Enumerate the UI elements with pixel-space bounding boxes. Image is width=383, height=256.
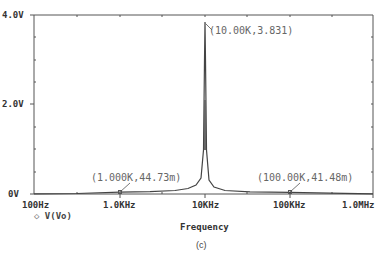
x-tick-label-100khz: 100KHz bbox=[273, 200, 306, 210]
x-tick-label-1mhz: 1.0MHz bbox=[342, 200, 375, 210]
x-tick-label-1khz: 1.0KHz bbox=[103, 200, 136, 210]
x-axis-title: Frequency bbox=[180, 222, 229, 232]
annotation-100khz: (100.00K,41.48m) bbox=[257, 172, 353, 183]
legend-diamond-icon: ◇ bbox=[34, 211, 39, 221]
x-tick-label-100hz: 100Hz bbox=[22, 200, 49, 210]
y-tick-label-2v: 2.0V bbox=[2, 99, 24, 109]
series-v-vo bbox=[34, 22, 373, 194]
x-tick-label-10khz: 10KHz bbox=[192, 200, 219, 210]
y-tick-label-4v: 4.0V bbox=[2, 10, 24, 20]
legend-label: V(Vo) bbox=[45, 211, 72, 221]
annotation-peak: (10.00K,3.831) bbox=[209, 25, 293, 36]
legend: ◇ V(Vo) bbox=[34, 211, 72, 221]
figure-caption: (c) bbox=[196, 240, 207, 250]
annotation-1khz: (1.000K,44.73m) bbox=[91, 172, 181, 183]
y-tick-label-0v: 0V bbox=[8, 189, 19, 199]
